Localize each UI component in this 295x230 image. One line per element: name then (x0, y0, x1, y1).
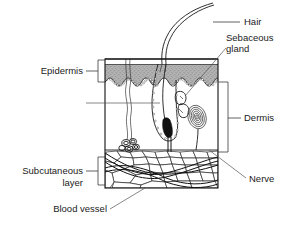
blood-vessel-leader-line (110, 188, 145, 209)
label-nerve: Nerve (249, 173, 274, 184)
label-subcutaneous-line1: Subcutaneous (22, 165, 83, 176)
diagram-canvas: Hair Sebaceous gland Epidermis Dermis Su… (0, 0, 295, 230)
subcutaneous-bracket (86, 157, 105, 185)
skin-cross-section-diagram: Hair Sebaceous gland Epidermis Dermis Su… (0, 0, 295, 230)
hair-shaft-inner (166, 5, 214, 64)
label-sebaceous-gland-line2: gland (226, 43, 249, 54)
subcutaneous-layer (105, 150, 218, 188)
label-subcutaneous-line2: layer (62, 177, 83, 188)
dermis-bracket (218, 82, 241, 152)
label-sebaceous-gland-line1: Sebaceous (226, 32, 274, 43)
epidermis-bracket (86, 60, 105, 82)
label-dermis: Dermis (244, 112, 274, 123)
label-epidermis: Epidermis (41, 65, 83, 76)
skin-block (105, 3, 218, 188)
hair-shaft-outer (162, 3, 213, 64)
label-blood-vessel: Blood vessel (53, 203, 107, 214)
label-hair: Hair (244, 16, 261, 27)
